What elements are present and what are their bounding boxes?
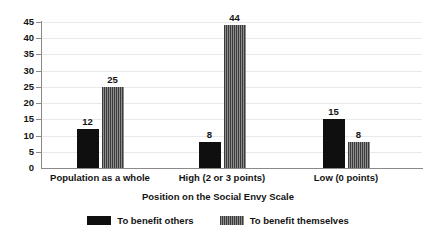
bar-chart: 051015202530354045 1225844158 Population… bbox=[0, 0, 436, 235]
legend-swatch-icon bbox=[87, 216, 111, 225]
y-axis-tick-label: 20 bbox=[8, 98, 34, 108]
y-axis-tick-label: 15 bbox=[8, 114, 34, 124]
bar-benefit-others bbox=[77, 129, 99, 168]
y-axis-tick-label: 10 bbox=[8, 131, 34, 141]
y-axis-tick-mark bbox=[36, 38, 41, 39]
y-axis-tick-mark bbox=[36, 103, 41, 104]
y-axis-tick-mark bbox=[36, 136, 41, 137]
y-axis-tick-label: 35 bbox=[8, 49, 34, 59]
x-axis-line bbox=[41, 168, 423, 169]
legend-swatch-icon bbox=[220, 216, 244, 225]
y-axis-tick-label: 40 bbox=[8, 33, 34, 43]
legend-item[interactable]: To benefit themselves bbox=[220, 216, 349, 226]
bar-value-label: 8 bbox=[340, 130, 378, 140]
bars-layer: 1225844158 bbox=[42, 22, 422, 168]
bar-benefit-themselves bbox=[348, 142, 370, 168]
bar-benefit-others bbox=[199, 142, 221, 168]
y-axis-tick-mark bbox=[36, 22, 41, 23]
y-axis-tick-label: 25 bbox=[8, 82, 34, 92]
y-axis-tick-mark bbox=[36, 87, 41, 88]
y-axis-tick-label: 45 bbox=[8, 17, 34, 27]
bar-benefit-others bbox=[323, 119, 345, 168]
y-axis-tick-mark bbox=[36, 152, 41, 153]
x-axis-category-label: Low (0 points) bbox=[266, 173, 426, 183]
y-axis-tick-mark bbox=[36, 71, 41, 72]
y-axis-tick-label: 5 bbox=[8, 147, 34, 157]
y-axis-tick-mark bbox=[36, 54, 41, 55]
legend-label: To benefit themselves bbox=[250, 216, 349, 226]
x-axis-title: Position on the Social Envy Scale bbox=[0, 191, 436, 202]
bar-benefit-themselves bbox=[224, 25, 246, 168]
bar-value-label: 25 bbox=[94, 75, 132, 85]
bar-value-label: 44 bbox=[216, 13, 254, 23]
y-axis-tick-mark bbox=[36, 119, 41, 120]
legend-label: To benefit others bbox=[117, 216, 193, 226]
bar-value-label: 15 bbox=[315, 107, 353, 117]
bar-benefit-themselves bbox=[102, 87, 124, 168]
y-axis-tick-label: 30 bbox=[8, 66, 34, 76]
legend-item[interactable]: To benefit others bbox=[87, 216, 193, 226]
y-axis-tick-label: 0 bbox=[8, 163, 34, 173]
chart-legend: To benefit othersTo benefit themselves bbox=[0, 216, 436, 226]
